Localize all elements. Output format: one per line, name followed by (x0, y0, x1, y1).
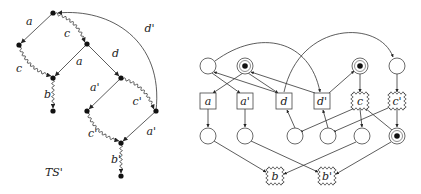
ts-state-node (50, 10, 55, 15)
transition-label: c (357, 95, 363, 108)
transition-label: b' (322, 170, 332, 183)
ts-state-node (84, 41, 89, 46)
petri-arc (213, 73, 243, 93)
ts-edge-label: c (64, 27, 70, 40)
petri-arc (287, 110, 295, 128)
transition-label: a (205, 95, 212, 108)
petri-place (200, 58, 216, 74)
ts-edge-label: a (26, 15, 33, 28)
petri-arc (323, 110, 328, 128)
transition-label: b (271, 170, 278, 183)
transition-label: a' (240, 95, 250, 108)
ts-state-node (118, 75, 123, 80)
ts-edge-label: d' (145, 22, 155, 35)
petri-transitions: aa'dd'cc'bb' (200, 92, 406, 185)
petri-arc (284, 33, 393, 92)
ts-edge-d-prime (58, 12, 157, 111)
ts-state-node (153, 108, 158, 113)
petri-place (320, 128, 336, 144)
ts-edge-label: d (112, 47, 119, 60)
ts-edges: accabda'c'c'a'b'd' (16, 12, 157, 173)
token-icon (357, 63, 363, 69)
ts-edge-label: a' (147, 125, 157, 138)
ts-state-node (118, 140, 123, 145)
petri-arc (214, 141, 266, 172)
petri-arc (215, 43, 320, 92)
petri-place (200, 128, 216, 144)
ts-state-node (84, 108, 89, 113)
ts-edge-label: a' (90, 81, 100, 94)
petri-place (287, 128, 303, 144)
transition-label: d' (317, 95, 327, 108)
ts-caption: TS' (45, 166, 63, 179)
petri-arc (365, 108, 392, 130)
ts-state-node (118, 173, 123, 178)
ts-edge-label: c (16, 62, 22, 75)
petri-arc (360, 109, 362, 127)
petri-place (237, 128, 253, 144)
ts-edge-b (52, 78, 55, 108)
ts-state-node (50, 108, 55, 113)
petri-net: aa'dd'cc'bb' (200, 33, 406, 186)
petri-arc (214, 72, 278, 93)
ts-edge-label: c' (88, 127, 97, 140)
ts-edge-label: b' (111, 153, 121, 166)
ts-edge-label: c' (133, 95, 142, 108)
transition-label: c' (392, 95, 401, 108)
ts-edge-label: b (44, 88, 51, 101)
ts-edge-label: a (76, 55, 83, 68)
petri-arc (251, 72, 315, 93)
ts-edge-c (19, 45, 51, 76)
token-icon (242, 63, 248, 69)
ts-state-node (16, 42, 21, 47)
petri-place (354, 128, 370, 144)
petri-arc (329, 71, 354, 93)
petri-arc (251, 141, 318, 172)
diagram-canvas: accabda'c'c'a'b'd' TS' aa'dd'cc'bb' (0, 0, 421, 194)
token-icon (394, 133, 400, 139)
transition-system-graph: accabda'c'c'a'b'd' TS' (16, 10, 159, 179)
petri-place (389, 58, 405, 74)
ts-state-node (50, 75, 55, 80)
transition-label: d (280, 95, 287, 108)
